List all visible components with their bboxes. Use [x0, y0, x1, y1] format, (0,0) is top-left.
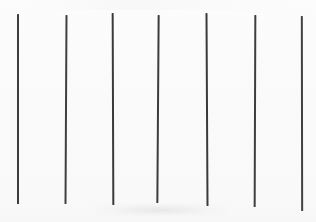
line-4 [156, 15, 159, 203]
line-5 [205, 13, 208, 206]
line-2 [65, 15, 68, 204]
line-1 [17, 14, 19, 204]
line-7 [301, 16, 303, 211]
line-3 [112, 13, 115, 205]
line-layer [0, 0, 316, 222]
stimulus-canvas [0, 0, 316, 222]
line-6 [254, 15, 257, 207]
